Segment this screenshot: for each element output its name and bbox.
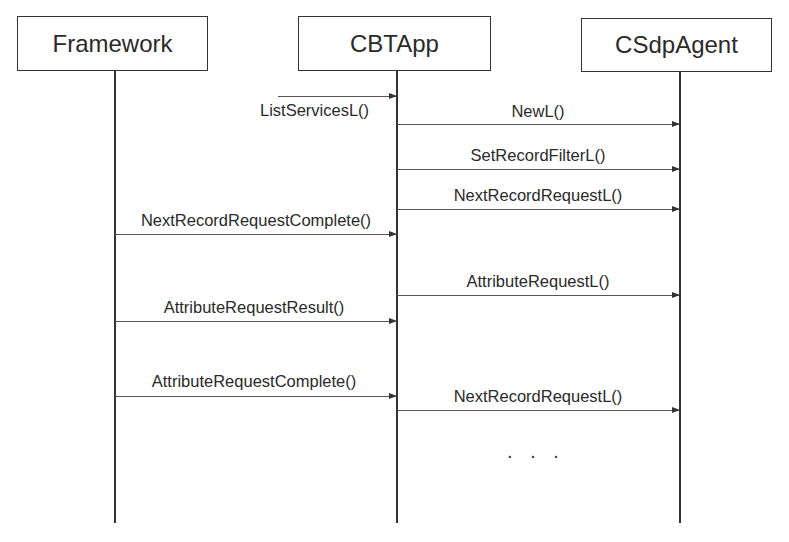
- message-label: NewL(): [511, 102, 564, 121]
- message-label: AttributeRequestL(): [466, 272, 609, 291]
- arrowhead-icon: [672, 407, 680, 413]
- message-label: NextRecordRequestL(): [454, 387, 623, 406]
- message-arrow: [115, 396, 396, 397]
- arrowhead-icon: [389, 318, 397, 324]
- arrowhead-icon: [389, 393, 397, 399]
- continuation-ellipsis: . . .: [507, 440, 565, 463]
- message-arrow: [278, 96, 396, 97]
- message-label: AttributeRequestResult(): [164, 298, 345, 317]
- message-label: AttributeRequestComplete(): [152, 372, 357, 391]
- participant-framework: Framework: [17, 16, 208, 71]
- arrowhead-icon: [672, 121, 680, 127]
- participant-cbtapp: CBTApp: [298, 16, 491, 71]
- lifeline-framework: [114, 70, 116, 523]
- message-arrow: [397, 169, 679, 170]
- message-arrow: [397, 124, 679, 125]
- message-label: SetRecordFilterL(): [471, 146, 606, 165]
- arrowhead-icon: [389, 231, 397, 237]
- message-label: NextRecordRequestL(): [454, 186, 623, 205]
- arrowhead-icon: [389, 93, 397, 99]
- participant-label: CBTApp: [350, 30, 439, 58]
- lifeline-cbtapp: [396, 70, 398, 523]
- message-arrow: [397, 209, 679, 210]
- arrowhead-icon: [672, 206, 680, 212]
- arrowhead-icon: [672, 166, 680, 172]
- message-label: NextRecordRequestComplete(): [141, 211, 371, 230]
- message-arrow: [115, 321, 396, 322]
- participant-csdpagent: CSdpAgent: [581, 18, 772, 72]
- participant-label: CSdpAgent: [615, 31, 738, 59]
- message-arrow: [397, 410, 679, 411]
- participant-label: Framework: [52, 30, 172, 58]
- message-arrow: [397, 295, 679, 296]
- message-arrow: [115, 234, 396, 235]
- message-label: ListServicesL(): [260, 101, 369, 120]
- arrowhead-icon: [672, 292, 680, 298]
